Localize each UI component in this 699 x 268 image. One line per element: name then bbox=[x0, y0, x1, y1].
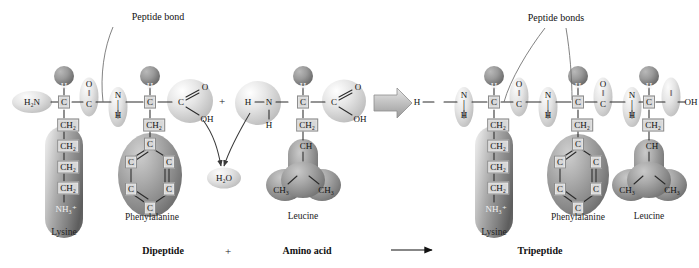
residue-label-lysine-dipeptide: Lysine bbox=[51, 227, 76, 237]
peptide-bonds-annotation: Peptide bonds bbox=[528, 12, 584, 23]
caption-layer: Peptide bond Peptide bonds Lysine Phenyl… bbox=[0, 0, 699, 268]
equation-reactant-dipeptide: Dipeptide bbox=[142, 245, 184, 256]
residue-label-lysine-tripeptide: Lysine bbox=[481, 227, 506, 237]
residue-label-leucine-tripeptide: Leucine bbox=[634, 211, 665, 221]
residue-label-phenylalanine-dipeptide: Phenylalanine bbox=[125, 212, 179, 222]
diagram-canvas: H₂N H C O ‖ C CH₂ CH₂ CH₂ CH₂ NH₃⁺ N │ H… bbox=[0, 0, 699, 268]
reaction-plus-top: + bbox=[219, 95, 225, 107]
residue-label-phenylalanine-tripeptide: Phenylalanine bbox=[551, 212, 605, 222]
residue-label-leucine-aminoacid: Leucine bbox=[288, 211, 319, 221]
equation-product-tripeptide: Tripeptide bbox=[518, 245, 563, 256]
peptide-bond-annotation: Peptide bond bbox=[132, 11, 185, 22]
equation-reactant-amino-acid: Amino acid bbox=[282, 245, 331, 256]
equation-plus: + bbox=[225, 245, 231, 257]
